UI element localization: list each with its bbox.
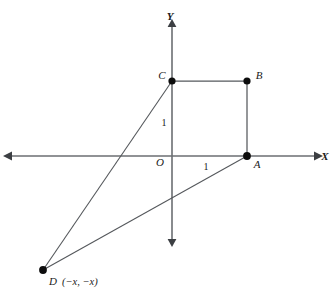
point-a-dot	[243, 152, 251, 160]
point-label-b: B	[256, 69, 263, 81]
x-axis-left-arrow-icon	[3, 152, 12, 161]
vertex-dots-group	[39, 77, 251, 274]
geometry-diagram-canvas: X Y O 1 1 C B A D (−x, −x)	[0, 0, 336, 298]
triangle-d-group	[43, 81, 247, 270]
point-label-a: A	[253, 158, 261, 170]
point-c-dot	[168, 77, 175, 84]
label-group: X Y O 1 1 C B A D (−x, −x)	[48, 10, 329, 288]
x-tick-label-1: 1	[204, 161, 209, 172]
square-ocba-group	[172, 81, 247, 156]
point-label-o: O	[156, 156, 164, 168]
axis-group	[3, 19, 323, 247]
segment-DC	[43, 81, 172, 270]
point-coords-d: (−x, −x)	[62, 276, 98, 288]
point-b-dot	[243, 77, 250, 84]
y-axis-label: Y	[167, 10, 175, 22]
point-d-dot	[39, 266, 47, 274]
geometry-svg: X Y O 1 1 C B A D (−x, −x)	[0, 0, 336, 298]
y-axis-down-arrow-icon	[168, 239, 177, 247]
y-tick-label-1: 1	[162, 117, 167, 128]
point-label-c: C	[158, 69, 166, 81]
segment-DA	[43, 156, 247, 270]
x-axis-label: X	[320, 150, 329, 162]
point-label-d: D	[48, 275, 57, 287]
